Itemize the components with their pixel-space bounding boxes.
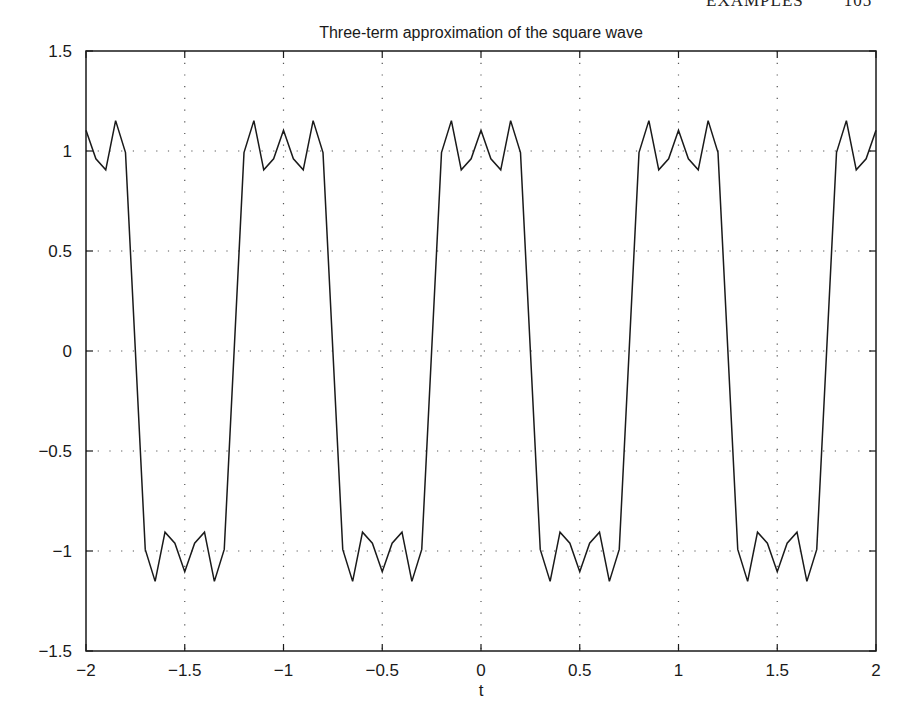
series-line	[86, 121, 876, 582]
x-tick-label: 1.5	[765, 661, 789, 680]
x-tick-label: 0	[476, 661, 485, 680]
x-tick-label: −1.5	[168, 661, 202, 680]
axis-ticks	[86, 51, 876, 651]
chart-title: Three-term approximation of the square w…	[319, 24, 643, 41]
x-tick-label: 1	[674, 661, 683, 680]
x-axis-label: t	[479, 681, 484, 700]
y-tick-label: 0.5	[48, 242, 72, 261]
y-tick-label: −1.5	[38, 642, 72, 661]
plot-frame	[86, 51, 876, 651]
y-tick-label: 0	[63, 342, 72, 361]
y-tick-label: 1.5	[48, 42, 72, 61]
grid-lines	[86, 51, 876, 651]
x-tick-label: −0.5	[365, 661, 399, 680]
y-axis-tick-labels: −1.5−1−0.500.511.5	[38, 42, 72, 661]
y-tick-label: −0.5	[38, 442, 72, 461]
y-tick-label: 1	[63, 142, 72, 161]
x-tick-label: 2	[871, 661, 880, 680]
x-tick-label: 0.5	[568, 661, 592, 680]
x-tick-label: −1	[274, 661, 293, 680]
y-tick-label: −1	[53, 542, 72, 561]
line-chart: Three-term approximation of the square w…	[0, 0, 911, 721]
x-tick-label: −2	[76, 661, 95, 680]
x-axis-tick-labels: −2−1.5−1−0.500.511.52	[76, 661, 880, 680]
